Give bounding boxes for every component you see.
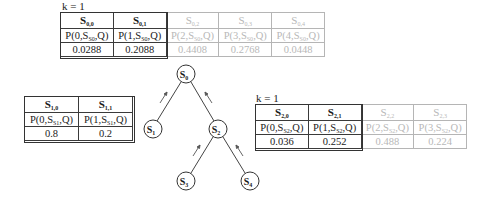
edge-s2-s3	[191, 137, 213, 173]
edge-s2-s4	[223, 137, 245, 173]
arrow-up-icon	[160, 92, 167, 103]
arrow-up-icon	[193, 145, 200, 156]
arrow-up-icon	[236, 145, 243, 156]
arrow-up-icon	[205, 92, 212, 103]
tree-diagram: S0 S1 S2 S3 S4	[0, 0, 488, 201]
